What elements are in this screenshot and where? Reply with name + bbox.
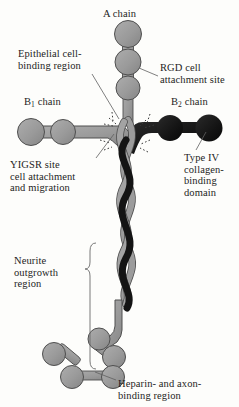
leader-rgd bbox=[139, 68, 158, 76]
b1-chain-arm bbox=[18, 119, 131, 147]
label-b1-chain-subscript: 1 bbox=[31, 100, 35, 109]
label-heparin-axon-binding-region: Heparin- and axon- binding region bbox=[118, 378, 201, 401]
label-neurite-outgrowth-region: Neurite outgrowth region bbox=[14, 255, 58, 290]
laminin-diagram-figure: A chain Epithelial cell- binding region … bbox=[0, 0, 239, 407]
label-b2-chain-subscript: 2 bbox=[178, 100, 182, 109]
heparin-axon-binding-region bbox=[43, 300, 126, 389]
b2-chain-globule-2 bbox=[196, 115, 223, 142]
label-epithelial-cell-binding-region: Epithelial cell- binding region bbox=[18, 48, 82, 71]
b1-chain-globule-1 bbox=[18, 119, 45, 146]
neurite-region-brace bbox=[85, 243, 96, 369]
leader-epithelial bbox=[92, 74, 119, 119]
label-b1-chain-word: chain bbox=[35, 96, 61, 107]
b2-chain-arm bbox=[122, 115, 223, 155]
a-chain-globule-3 bbox=[116, 76, 140, 100]
terminal-globule-5 bbox=[43, 343, 66, 366]
label-a-chain: A chain bbox=[103, 8, 136, 20]
terminal-globule-4 bbox=[61, 366, 84, 389]
label-b2-chain: B2 chain bbox=[171, 96, 208, 108]
label-b2-chain-word: chain bbox=[182, 96, 208, 107]
a-chain-globule-2 bbox=[115, 49, 141, 75]
a-chain-arm bbox=[115, 21, 142, 127]
coiled-coil-region bbox=[120, 120, 132, 308]
label-yigsr-site: YIGSR site cell attachment and migration bbox=[10, 159, 75, 194]
terminal-globule-1 bbox=[88, 328, 110, 350]
b1-chain-globule-2 bbox=[51, 120, 76, 145]
label-b1-chain: B1 chain bbox=[24, 96, 61, 108]
a-chain-globule-1 bbox=[115, 21, 142, 48]
leader-lines bbox=[92, 68, 206, 380]
b2-chain-globule-1 bbox=[157, 115, 183, 141]
label-type-iv-collagen-binding-domain: Type IV collagen- binding domain bbox=[184, 152, 224, 198]
label-rgd-cell-attachment-site: RGD cell attachment site bbox=[160, 62, 225, 85]
